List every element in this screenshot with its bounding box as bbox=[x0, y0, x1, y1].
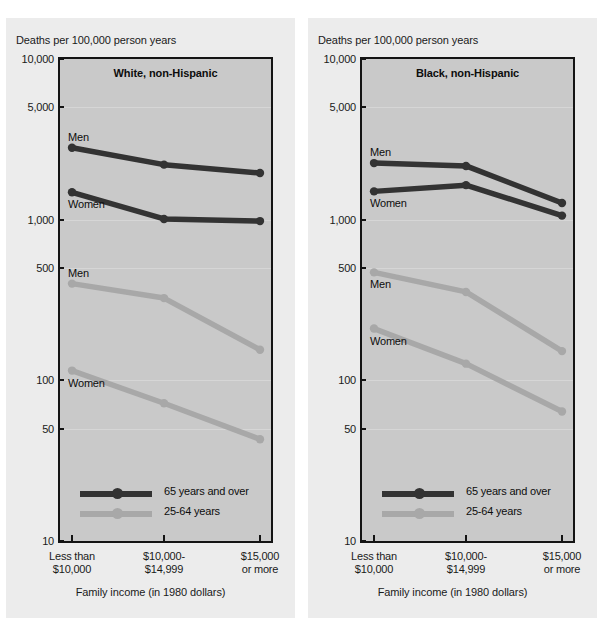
series-layer bbox=[362, 59, 573, 541]
y-axis-tick-label: 1,000 bbox=[8, 214, 54, 226]
y-axis-tick-label: 5,000 bbox=[8, 101, 54, 113]
x-axis-title: Family income (in 1980 dollars) bbox=[6, 586, 295, 598]
data-point[interactable] bbox=[558, 211, 566, 219]
legend-label: 25-64 years bbox=[164, 505, 220, 517]
data-point[interactable] bbox=[558, 407, 566, 415]
y-axis-title: Deaths per 100,000 person years bbox=[318, 34, 478, 46]
y-axis-tick-label: 50 bbox=[8, 423, 54, 435]
data-point[interactable] bbox=[370, 324, 378, 332]
data-point[interactable] bbox=[160, 160, 168, 168]
series-layer bbox=[60, 59, 271, 541]
y-axis-title: Deaths per 100,000 person years bbox=[16, 34, 176, 46]
data-point[interactable] bbox=[68, 188, 76, 196]
legend-marker-dot bbox=[112, 488, 123, 499]
data-point[interactable] bbox=[256, 217, 264, 225]
series-label-men-2: Men bbox=[370, 278, 391, 290]
plot-area: White, non-Hispanic 65 years and over25-… bbox=[58, 57, 273, 543]
legend-marker-dot bbox=[112, 508, 123, 519]
data-point[interactable] bbox=[558, 347, 566, 355]
y-axis-tick-label: 100 bbox=[8, 374, 54, 386]
y-axis-tick-label: 50 bbox=[310, 423, 356, 435]
series-label-women-3: Women bbox=[68, 377, 105, 389]
y-axis-tick-label: 100 bbox=[310, 374, 356, 386]
x-axis-tick-label: Less than$10,000 bbox=[49, 550, 95, 576]
data-point[interactable] bbox=[160, 294, 168, 302]
data-point[interactable] bbox=[370, 159, 378, 167]
y-axis-tick-label: 10 bbox=[310, 535, 356, 547]
data-point[interactable] bbox=[68, 366, 76, 374]
series-line bbox=[72, 148, 260, 173]
series-line bbox=[72, 284, 260, 350]
x-axis-tick-label: $10,000-$14,999 bbox=[143, 550, 185, 576]
x-axis-tick-label: $15,000or more bbox=[543, 550, 581, 576]
data-point[interactable] bbox=[256, 169, 264, 177]
data-point[interactable] bbox=[462, 359, 470, 367]
data-point[interactable] bbox=[558, 199, 566, 207]
data-point[interactable] bbox=[462, 181, 470, 189]
plot-area: Black, non-Hispanic 65 years and over25-… bbox=[360, 57, 575, 543]
x-axis-title: Family income (in 1980 dollars) bbox=[308, 586, 597, 598]
series-label-men-0: Men bbox=[68, 131, 89, 143]
series-label-women-3: Women bbox=[370, 335, 407, 347]
series-label-men-2: Men bbox=[68, 267, 89, 279]
data-point[interactable] bbox=[160, 399, 168, 407]
chart-panel-white-non-hispanic: Deaths per 100,000 person years White, n… bbox=[6, 18, 295, 618]
legend-marker-dot bbox=[414, 508, 425, 519]
data-point[interactable] bbox=[160, 215, 168, 223]
data-point[interactable] bbox=[370, 268, 378, 276]
data-point[interactable] bbox=[256, 435, 264, 443]
data-point[interactable] bbox=[370, 187, 378, 195]
legend-marker-dot bbox=[414, 488, 425, 499]
data-point[interactable] bbox=[68, 279, 76, 287]
data-point[interactable] bbox=[462, 288, 470, 296]
y-axis-tick-label: 5,000 bbox=[310, 101, 356, 113]
legend-label: 65 years and over bbox=[466, 485, 551, 497]
data-point[interactable] bbox=[462, 162, 470, 170]
data-point[interactable] bbox=[256, 346, 264, 354]
x-axis-tick-label: $15,000or more bbox=[241, 550, 279, 576]
chart-page: Deaths per 100,000 person years White, n… bbox=[0, 0, 603, 637]
y-axis-tick-label: 10,000 bbox=[8, 53, 54, 65]
data-point[interactable] bbox=[68, 144, 76, 152]
x-axis-tick-label: $10,000-$14,999 bbox=[445, 550, 487, 576]
chart-panel-black-non-hispanic: Deaths per 100,000 person years Black, n… bbox=[308, 18, 597, 618]
series-label-women-1: Women bbox=[370, 197, 407, 209]
y-axis-tick-label: 500 bbox=[310, 262, 356, 274]
series-label-women-1: Women bbox=[68, 198, 105, 210]
legend-label: 65 years and over bbox=[164, 485, 249, 497]
y-axis-tick-label: 10 bbox=[8, 535, 54, 547]
x-axis-tick-label: Less than$10,000 bbox=[351, 550, 397, 576]
y-axis-tick-label: 1,000 bbox=[310, 214, 356, 226]
legend-label: 25-64 years bbox=[466, 505, 522, 517]
y-axis-tick-label: 10,000 bbox=[310, 53, 356, 65]
series-label-men-0: Men bbox=[370, 146, 391, 158]
y-axis-tick-label: 500 bbox=[8, 262, 54, 274]
